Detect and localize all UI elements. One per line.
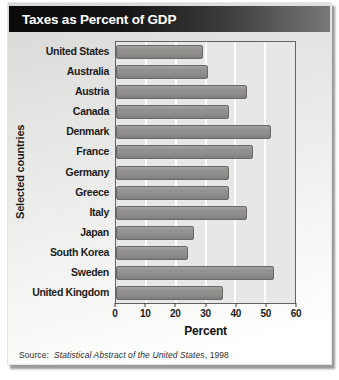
tick-label-30: 30 (193, 308, 219, 319)
bar-united-states (116, 45, 203, 59)
category-label-sweden: Sweden (28, 262, 109, 282)
tick-mark-50 (265, 303, 266, 307)
tick-label-50: 50 (253, 308, 279, 319)
tick-mark-40 (235, 303, 236, 307)
tick-mark-30 (205, 303, 206, 307)
bar-row-australia (116, 62, 295, 82)
bar-row-france (116, 142, 295, 162)
chart-card: Taxes as Percent of GDP Selected countri… (7, 2, 332, 365)
category-label-italy: Italy (28, 202, 109, 222)
bar-south-korea (116, 246, 188, 260)
bar-austria (116, 85, 247, 99)
bar-row-denmark (116, 122, 295, 142)
chart-title-bar: Taxes as Percent of GDP (9, 6, 330, 32)
bar-row-germany (116, 162, 295, 182)
x-axis-label: Percent (115, 324, 296, 338)
category-labels-column: United StatesAustraliaAustriaCanadaDenma… (28, 41, 109, 302)
bar-united-kingdom (116, 286, 223, 300)
category-label-south-korea: South Korea (28, 242, 109, 262)
bar-france (116, 145, 253, 159)
bar-row-austria (116, 82, 295, 102)
bar-sweden (116, 266, 274, 280)
category-label-austria: Austria (28, 81, 109, 101)
plot-area (115, 41, 296, 304)
bar-denmark (116, 125, 271, 139)
bar-row-sweden (116, 263, 295, 283)
source-year: , 1998 (205, 350, 229, 360)
bar-row-canada (116, 102, 295, 122)
tick-mark-10 (145, 303, 146, 307)
category-label-france: France (28, 141, 109, 161)
category-label-japan: Japan (28, 222, 109, 242)
chart-title: Taxes as Percent of GDP (9, 12, 176, 27)
bar-row-greece (116, 183, 295, 203)
category-label-australia: Australia (28, 61, 109, 81)
tick-label-0: 0 (102, 308, 128, 319)
tick-label-20: 20 (162, 308, 188, 319)
category-label-germany: Germany (28, 161, 109, 181)
bar-japan (116, 226, 194, 240)
category-label-united-states: United States (28, 41, 109, 61)
bar-row-japan (116, 223, 295, 243)
bar-row-united-states (116, 42, 295, 62)
tick-label-10: 10 (132, 308, 158, 319)
source-citation: Source:Statistical Abstract of the Unite… (19, 350, 229, 360)
bar-italy (116, 206, 247, 220)
source-work-title: Statistical Abstract of the United State… (54, 350, 205, 360)
tick-mark-0 (115, 303, 116, 307)
bar-canada (116, 105, 229, 119)
bar-row-united-kingdom (116, 283, 295, 303)
tick-mark-60 (296, 303, 297, 307)
bar-row-south-korea (116, 243, 295, 263)
bars-layer (116, 42, 295, 303)
bar-australia (116, 65, 208, 79)
bar-germany (116, 166, 229, 180)
tick-label-40: 40 (223, 308, 249, 319)
tick-label-60: 60 (283, 308, 309, 319)
category-label-canada: Canada (28, 101, 109, 121)
category-label-greece: Greece (28, 182, 109, 202)
category-label-united-kingdom: United Kingdom (28, 282, 109, 302)
source-prefix: Source: (19, 350, 49, 360)
bar-greece (116, 186, 229, 200)
y-axis-label: Selected countries (12, 41, 28, 302)
category-label-denmark: Denmark (28, 121, 109, 141)
bar-row-italy (116, 203, 295, 223)
tick-mark-20 (175, 303, 176, 307)
